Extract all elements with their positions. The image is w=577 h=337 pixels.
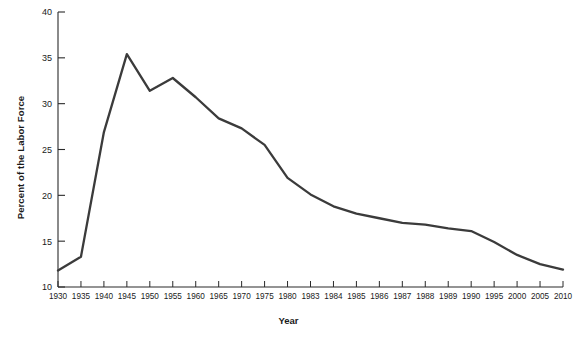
y-axis: 10152025303540	[42, 7, 65, 292]
y-axis-tick-label: 35	[42, 53, 52, 63]
x-axis-tick-label: 1975	[255, 292, 274, 301]
x-axis-tick-label: 1970	[233, 292, 252, 301]
x-axis-tick-label: 1990	[462, 292, 481, 301]
x-axis-tick-label: 1983	[301, 292, 320, 301]
chart-container: Percent of the Labor Force Year 10152025…	[0, 0, 577, 337]
y-axis-tick-label: 20	[42, 191, 52, 201]
x-axis-tick-label: 1960	[187, 292, 206, 301]
x-axis-tick-label: 2000	[508, 292, 527, 301]
y-axis-tick-label: 15	[42, 237, 52, 247]
x-axis-tick-label: 1955	[164, 292, 183, 301]
x-axis-tick-label: 1950	[141, 292, 160, 301]
line-chart-plot: 10152025303540 1930193519401945195019551…	[0, 0, 577, 337]
x-axis-tick-label: 1965	[210, 292, 229, 301]
y-axis-tick-label: 30	[42, 99, 52, 109]
x-axis-tick-label: 2005	[531, 292, 550, 301]
x-axis-tick-label: 1935	[72, 292, 91, 301]
x-axis-tick-label: 1986	[370, 292, 389, 301]
x-axis: 1930193519401945195019551960196519701975…	[49, 281, 573, 301]
y-axis-tick-label: 40	[42, 7, 52, 17]
x-axis-tick-label: 1995	[485, 292, 504, 301]
y-axis-tick-label: 10	[42, 282, 52, 292]
x-axis-tick-label: 1988	[416, 292, 435, 301]
x-axis-tick-label: 2010	[554, 292, 573, 301]
x-axis-tick-label: 1980	[278, 292, 297, 301]
data-series-union-membership	[58, 54, 563, 270]
x-axis-tick-label: 1985	[347, 292, 366, 301]
x-axis-tick-label: 1930	[49, 292, 68, 301]
y-axis-tick-label: 25	[42, 145, 52, 155]
x-axis-tick-label: 1940	[95, 292, 114, 301]
series-line	[58, 54, 563, 270]
x-axis-tick-label: 1945	[118, 292, 137, 301]
x-axis-tick-label: 1984	[324, 292, 343, 301]
x-axis-tick-label: 1987	[393, 292, 412, 301]
x-axis-tick-label: 1989	[439, 292, 458, 301]
